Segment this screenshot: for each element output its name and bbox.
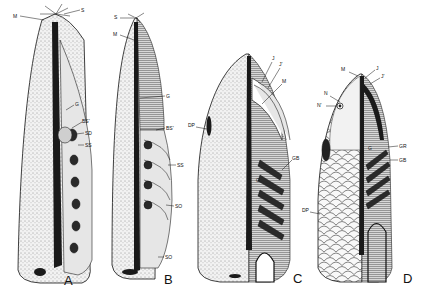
label-c-m: M bbox=[282, 78, 286, 84]
panel-c-notochord bbox=[246, 56, 252, 250]
label-d-j2: J' bbox=[381, 73, 385, 79]
panel-c: J J' M DP GB G C bbox=[188, 54, 302, 286]
panel-b-anus bbox=[122, 269, 138, 275]
label-d-gr: GR bbox=[399, 143, 407, 149]
panel-c-body bbox=[198, 54, 249, 282]
panel-b-gill-region bbox=[140, 130, 172, 268]
panel-a: M S G BS' SD SS A bbox=[13, 4, 92, 288]
label-c-gb: GB bbox=[292, 155, 300, 161]
label-b-bs: BS' bbox=[166, 125, 174, 131]
label-a-ss: SS bbox=[85, 142, 92, 148]
panel-b: S M G BS' SS SO SO B bbox=[112, 13, 184, 287]
panel-d: M J J' N N' G GR GB DP D bbox=[302, 65, 412, 286]
panel-label-d: D bbox=[403, 271, 412, 286]
label-b-s: S bbox=[114, 14, 118, 20]
label-d-m: M bbox=[341, 66, 345, 72]
panel-a-anus bbox=[34, 268, 46, 276]
label-d-dp: DP bbox=[302, 207, 310, 213]
panel-a-cirri bbox=[40, 4, 70, 16]
label-b-m: M bbox=[113, 31, 117, 37]
figure-canvas: M S G BS' SD SS A bbox=[0, 0, 421, 290]
label-b-so-1: SO bbox=[175, 203, 182, 209]
panel-c-anus bbox=[229, 274, 241, 278]
label-d-n: N bbox=[324, 90, 328, 96]
label-d-gb: GB bbox=[399, 157, 407, 163]
panel-d-eye bbox=[322, 139, 330, 161]
label-a-bs: BS' bbox=[82, 118, 90, 124]
panel-a-endostyle bbox=[58, 127, 72, 143]
panel-d-nostril-inner bbox=[339, 105, 342, 108]
label-a-sd: SD bbox=[85, 130, 92, 136]
label-c-j2: J' bbox=[279, 61, 283, 67]
panel-b-pharynx bbox=[137, 18, 164, 130]
panel-label-b: B bbox=[164, 272, 173, 287]
panel-label-a: A bbox=[64, 273, 73, 288]
label-a-s: S bbox=[81, 7, 85, 13]
label-c-j: J bbox=[272, 55, 275, 61]
label-b-so-2: SO bbox=[165, 254, 172, 260]
label-a-m: M bbox=[13, 13, 17, 19]
panel-label-c: C bbox=[293, 271, 302, 286]
label-d-n2: N' bbox=[317, 102, 322, 108]
panel-c-dorsal-pore bbox=[207, 116, 212, 136]
label-d-g: G bbox=[368, 145, 372, 151]
label-d-j: J bbox=[376, 65, 379, 71]
label-a-g: G bbox=[75, 101, 79, 107]
label-c-g: G bbox=[256, 177, 260, 183]
panel-c-heart-cavity bbox=[256, 253, 274, 282]
label-c-dp: DP bbox=[188, 122, 196, 128]
panel-d-heart-cavity bbox=[368, 224, 386, 283]
panel-d-head-region bbox=[330, 76, 360, 150]
label-b-g: G bbox=[166, 93, 170, 99]
label-b-ss: SS bbox=[177, 162, 184, 168]
